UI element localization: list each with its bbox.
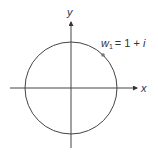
y-axis-label: y [66,6,74,18]
point-imag: i [143,37,146,49]
complex-plane-diagram: x y w1= 1 + i [0,0,158,156]
point-equals: = 1 + [115,37,143,49]
point-label: w1= 1 + i [101,37,146,50]
point-w1 [101,53,105,57]
x-axis-label: x [140,82,147,94]
point-subscript: 1 [109,43,113,50]
